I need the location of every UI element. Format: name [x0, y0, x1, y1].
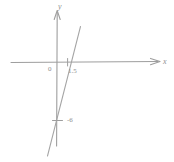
x-intercept-label: 1.5 [68, 68, 77, 75]
coordinate-plane-figure: x y 0 1.5 -6 [0, 0, 174, 162]
y-axis-line [57, 12, 58, 146]
x-axis-label: x [163, 58, 167, 66]
y-intercept-label: -6 [67, 117, 73, 124]
graph-canvas [0, 0, 174, 162]
plotted-line [48, 27, 81, 157]
y-axis-label: y [58, 3, 62, 11]
x-axis-line [11, 62, 158, 63]
origin-label: 0 [48, 66, 52, 73]
